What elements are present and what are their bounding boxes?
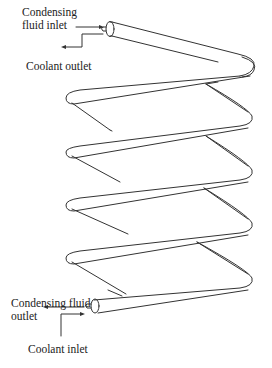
label-line: fluid inlet [22,19,77,32]
inlet-tube-top [102,22,255,77]
condensing-fluid-inlet-label: Condensing fluid inlet [22,6,77,32]
label-line: Condensing [22,6,77,19]
coil-front-segments [66,57,255,313]
coolant-inlet-label: Coolant inlet [28,343,88,356]
label-line: outlet [11,310,91,323]
label-line: Condensing fluid [11,297,91,310]
condensing-fluid-outlet-label: Condensing fluid outlet [11,297,91,323]
coolant-outlet-label: Coolant outlet [26,60,91,73]
